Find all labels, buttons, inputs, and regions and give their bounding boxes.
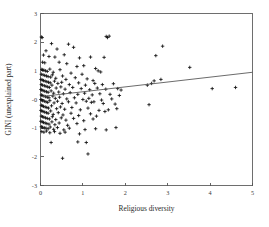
- data-point-marker: [74, 101, 77, 104]
- x-tick-label: 3: [166, 189, 169, 196]
- data-point-marker: [65, 62, 68, 65]
- regression-line: [41, 72, 253, 96]
- data-point-marker: [70, 106, 73, 109]
- data-point-marker: [75, 122, 78, 125]
- data-point-marker: [50, 83, 53, 86]
- x-tick-label: 0: [39, 189, 42, 196]
- data-point-marker: [56, 82, 59, 85]
- data-point-marker: [60, 81, 63, 84]
- data-point-marker: [43, 79, 46, 82]
- data-point-marker: [78, 132, 81, 135]
- data-point-marker: [55, 107, 58, 110]
- data-point-marker: [188, 66, 191, 69]
- data-point-marker: [45, 106, 48, 109]
- data-point-marker: [56, 126, 59, 129]
- data-point-marker: [57, 90, 60, 93]
- data-point-marker: [46, 70, 49, 73]
- data-point-marker: [102, 102, 105, 105]
- data-point-marker: [91, 117, 94, 120]
- data-point-marker: [50, 120, 53, 123]
- data-point-marker: [83, 128, 86, 131]
- data-point-marker: [76, 140, 79, 143]
- x-tick-label: 2: [124, 189, 127, 196]
- data-point-marker: [44, 100, 47, 103]
- data-point-marker: [49, 109, 52, 112]
- data-point-marker: [112, 82, 115, 85]
- data-point-marker: [47, 81, 50, 84]
- plot-area-border: [41, 14, 253, 186]
- data-point-marker: [57, 121, 60, 124]
- y-tick-label: 2: [34, 38, 37, 45]
- data-point-marker: [96, 86, 99, 89]
- y-tick-label: -0: [32, 96, 37, 103]
- data-point-marker: [53, 55, 56, 58]
- chart-figure: 321-0-1-2-3 012345 Religious diversity G…: [0, 0, 269, 227]
- data-point-marker: [43, 89, 46, 92]
- data-point-marker: [58, 68, 61, 71]
- data-point-marker: [119, 88, 122, 91]
- y-tick-label: 1: [34, 67, 37, 74]
- data-point-marker: [108, 93, 111, 96]
- data-point-marker: [64, 118, 67, 121]
- data-point-marker: [50, 42, 53, 45]
- data-point-marker: [114, 126, 117, 129]
- data-point-marker: [102, 56, 105, 59]
- data-point-marker: [105, 128, 108, 131]
- data-point-marker: [63, 108, 66, 111]
- data-point-marker: [44, 69, 47, 72]
- x-tick-label: 5: [251, 189, 254, 196]
- data-point-marker: [68, 126, 71, 129]
- data-point-marker: [63, 87, 66, 90]
- data-point-marker: [80, 87, 83, 90]
- data-point-marker: [82, 119, 85, 122]
- data-point-marker: [68, 83, 71, 86]
- data-point-marker: [89, 55, 92, 58]
- data-point-marker: [103, 110, 106, 113]
- data-point-marker: [67, 42, 70, 45]
- data-point-marker: [61, 157, 64, 160]
- data-point-marker: [72, 46, 75, 49]
- data-point-marker: [161, 44, 164, 47]
- data-point-marker: [46, 91, 49, 94]
- data-point-marker: [47, 55, 50, 58]
- x-tick-label: 1: [81, 189, 84, 196]
- data-point-marker: [52, 101, 55, 104]
- data-point-marker: [45, 111, 48, 114]
- data-point-marker: [43, 121, 46, 124]
- data-point-marker: [54, 97, 57, 100]
- data-point-marker: [49, 89, 52, 92]
- data-point-marker: [71, 86, 74, 89]
- data-point-marker: [69, 112, 72, 115]
- data-point-marker: [97, 109, 100, 112]
- data-point-marker: [84, 83, 87, 86]
- data-point-marker: [152, 79, 155, 82]
- data-point-marker: [234, 86, 237, 89]
- data-point-marker: [76, 93, 79, 96]
- data-point-marker: [78, 56, 81, 59]
- data-point-marker: [48, 67, 51, 70]
- data-point-marker: [87, 97, 90, 100]
- data-point-marker: [58, 132, 61, 135]
- data-points: [39, 34, 237, 160]
- data-point-marker: [54, 86, 57, 89]
- data-point-marker: [43, 61, 46, 64]
- data-point-marker: [46, 75, 49, 78]
- data-point-marker: [44, 49, 47, 52]
- data-point-marker: [107, 108, 110, 111]
- data-point-marker: [43, 84, 46, 87]
- data-point-marker: [48, 131, 51, 134]
- x-axis-ticks: 012345: [39, 183, 254, 196]
- data-point-marker: [98, 92, 101, 95]
- data-point-marker: [118, 94, 121, 97]
- data-point-marker: [46, 117, 49, 120]
- data-point-marker: [101, 83, 104, 86]
- data-point-marker: [57, 61, 60, 64]
- data-point-marker: [43, 105, 46, 108]
- data-point-marker: [44, 85, 47, 88]
- data-point-marker: [58, 96, 61, 99]
- data-point-marker: [100, 98, 103, 101]
- data-point-marker: [86, 106, 89, 109]
- data-point-marker: [75, 65, 78, 68]
- data-point-marker: [81, 98, 84, 101]
- data-point-marker: [45, 90, 48, 93]
